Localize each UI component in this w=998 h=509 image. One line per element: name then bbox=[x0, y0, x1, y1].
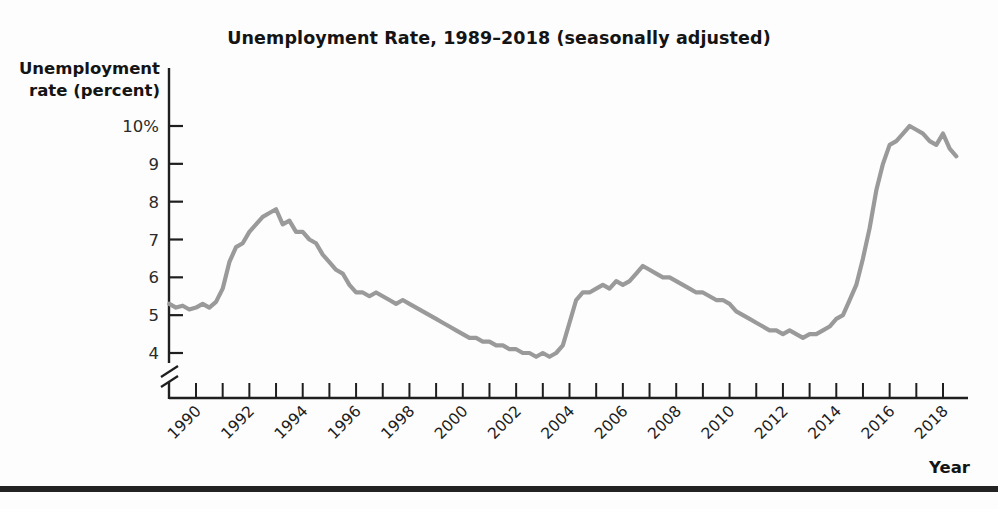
y-tick-label: 9 bbox=[149, 155, 160, 174]
chart-page: Unemployment Rate, 1989–2018 (seasonally… bbox=[0, 0, 998, 509]
bottom-divider bbox=[0, 486, 998, 492]
x-tick-label: 1996 bbox=[324, 402, 365, 443]
y-tick-label: 10% bbox=[122, 117, 159, 136]
x-tick-label: 2002 bbox=[484, 402, 525, 443]
x-tick-label: 2000 bbox=[431, 402, 472, 443]
x-tick-label: 2010 bbox=[698, 402, 739, 443]
y-tick-label: 6 bbox=[149, 268, 160, 287]
y-tick-label: 7 bbox=[149, 231, 160, 250]
x-axis-ticks: 1990199219941996199820002002200420062008… bbox=[164, 383, 952, 443]
x-tick-label: 2008 bbox=[644, 402, 685, 443]
y-axis-ticks: 10%987654 bbox=[122, 117, 183, 363]
x-tick-label: 2006 bbox=[591, 402, 632, 443]
x-tick-label: 2012 bbox=[751, 402, 792, 443]
x-tick-label: 2018 bbox=[911, 402, 952, 443]
x-tick-label: 1992 bbox=[218, 402, 259, 443]
x-tick-label: 2014 bbox=[804, 402, 845, 443]
y-tick-label: 4 bbox=[149, 344, 160, 363]
y-tick-label: 8 bbox=[149, 193, 160, 212]
x-tick-label: 1990 bbox=[164, 402, 205, 443]
axis-break-icon bbox=[161, 366, 178, 377]
axes bbox=[161, 68, 968, 399]
y-tick-label: 5 bbox=[149, 306, 160, 325]
x-tick-label: 1994 bbox=[271, 402, 312, 443]
unemployment-rate-line bbox=[169, 126, 956, 357]
x-tick-label: 2016 bbox=[858, 402, 899, 443]
x-tick-label: 1998 bbox=[378, 402, 419, 443]
x-axis-title: Year bbox=[929, 458, 970, 477]
chart-plot: 10%987654 199019921994199619982000200220… bbox=[0, 0, 998, 509]
data-series-group bbox=[169, 126, 956, 357]
x-tick-label: 2004 bbox=[538, 402, 579, 443]
